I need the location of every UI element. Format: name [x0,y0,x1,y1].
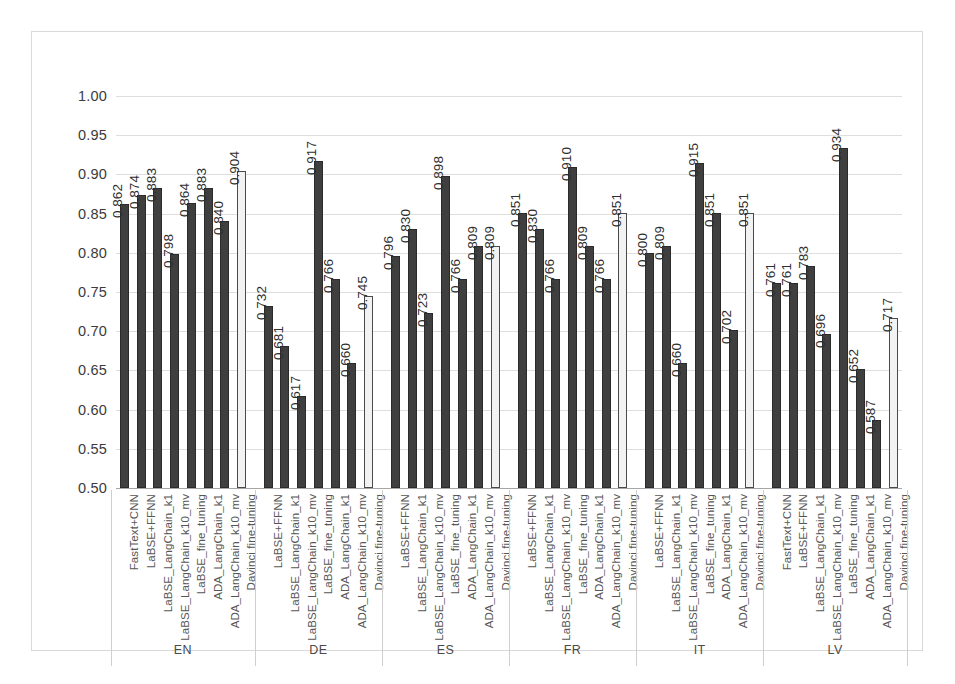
group-axis-label: IT [641,643,758,657]
category-axis-label: ADA_LangChain_k10_mv [229,494,241,628]
group-separator [255,490,256,666]
bar-value-label: 0.830 [398,209,413,243]
bar-value-label: 0.587 [863,400,878,434]
bar-value-label: 0.723 [415,293,430,327]
category-axis-label: LaBSE_LangChain_k1 [670,494,682,612]
category-axis-label: LaBSE+FFNN [526,494,538,568]
category-axis-label: ADA_LangChain_k10_mv [881,494,893,628]
bar-value-label: 0.910 [559,147,574,181]
y-axis-tick-label: 0.90 [78,166,107,182]
bar-value-label: 0.851 [508,193,523,227]
y-axis-tick-label: 0.65 [78,362,107,378]
bar: 0.766 [331,279,340,488]
category-axis-label: LaBSE_LangChain_k10_mv [433,494,445,641]
category-axis-label: LaBSE_LangChain_k1 [543,494,555,612]
category-axis-label: LaBSE_fine_tuning [322,494,334,594]
category-axis-label: LaBSE_LangChain_k1 [289,494,301,612]
bar-value-label: 0.934 [829,128,844,162]
bar-value-label: 0.874 [127,175,142,209]
bar: 0.864 [187,203,196,488]
y-axis-tick-label: 0.75 [78,284,107,300]
bar: 0.681 [280,346,289,488]
gridline [116,449,902,450]
category-axis-label: LaBSE_LangChain_k10_mv [687,494,699,641]
bar: 0.851 [712,213,721,488]
bar-value-label: 0.766 [321,260,336,294]
bar-value-label: 0.862 [110,184,125,218]
bar-value-label: 0.796 [381,236,396,270]
bar: 0.798 [170,254,179,488]
bar: 0.874 [137,195,146,488]
group-axis-label: ES [387,643,504,657]
gridline [116,96,902,97]
category-axis-label: ADA_LangChain_k1 [593,494,605,600]
bar: 0.934 [839,148,848,488]
bar-value-label: 0.851 [702,193,717,227]
group-separator-edge [111,490,112,666]
bar-value-label: 0.732 [254,286,269,320]
gridline [116,370,902,371]
bar: 0.851 [618,213,627,488]
bar: 0.766 [602,279,611,488]
category-axis-label: ADA_LangChain_k1 [864,494,876,600]
bar-value-label: 0.660 [338,343,353,377]
bar-value-label: 0.702 [719,310,734,344]
category-axis-label: LaBSE+FFNN [145,494,157,568]
bar-value-label: 0.883 [144,168,159,202]
bar-value-label: 0.798 [161,234,176,268]
bar: 0.766 [458,279,467,488]
chart-frame: 1.000.950.900.850.800.750.700.650.600.55… [31,31,923,651]
category-axis-label: LaBSE_fine_tuning [704,494,716,594]
category-axis-label: ADA_LangChain_k10_mv [610,494,622,628]
bar: 0.851 [518,213,527,488]
group-separator-edge [907,490,908,666]
bar: 0.723 [424,313,433,488]
bar: 0.761 [772,283,781,488]
gridline [116,253,902,254]
bar-value-label: 0.851 [609,193,624,227]
category-axis-label: FastText+CNN [128,494,140,570]
bar: 0.809 [491,246,500,488]
y-axis-tick-label: 0.70 [78,323,107,339]
category-axis-label: ADA_LangChain_k1 [212,494,224,600]
bar: 0.800 [645,253,654,488]
y-axis-tick-label: 0.55 [78,441,107,457]
bar: 0.745 [364,296,373,488]
gridline [116,331,902,332]
category-axis-label: LaBSE_LangChain_k10_mv [306,494,318,641]
group-separator [636,490,637,666]
bar-value-label: 0.766 [448,260,463,294]
bar: 0.840 [220,221,229,488]
category-axis-label: LaBSE+FFNN [272,494,284,568]
category-axis-label: LaBSE_fine_tuning [577,494,589,594]
bar-value-label: 0.800 [635,233,650,267]
group-axis-label: FR [514,643,631,657]
bar: 0.883 [153,188,162,488]
plot-area: 1.000.950.900.850.800.750.700.650.600.55… [116,96,902,488]
bar-value-label: 0.809 [482,226,497,260]
y-axis-tick-label: 0.50 [78,480,107,496]
bar-value-label: 0.652 [846,349,861,383]
bar: 0.717 [889,318,898,488]
category-axis-label: ADA_LangChain_k10_mv [356,494,368,628]
bar: 0.809 [474,246,483,488]
bar-value-label: 0.809 [652,226,667,260]
bar-value-label: 0.761 [779,263,794,297]
bar: 0.783 [806,266,815,488]
bar-value-label: 0.904 [227,151,242,185]
bar: 0.830 [408,229,417,488]
bar-value-label: 0.745 [355,276,370,310]
category-axis-label: LaBSE+FFNN [653,494,665,568]
bar-value-label: 0.761 [763,263,778,297]
category-axis-label: LaBSE_LangChain_k1 [416,494,428,612]
category-axis-label: LaBSE_fine_tuning [847,494,859,594]
group-separator [382,490,383,666]
bar-value-label: 0.809 [465,226,480,260]
category-axis-label: LaBSE_fine_tuning [195,494,207,594]
category-axis-label: LaBSE_LangChain_k10_mv [560,494,572,641]
bar: 0.917 [314,161,323,488]
bar-value-label: 0.898 [431,156,446,190]
bar: 0.862 [120,204,129,488]
group-separator [509,490,510,666]
bar: 0.660 [347,363,356,488]
